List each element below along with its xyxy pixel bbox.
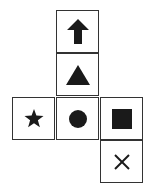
cell-star [12, 97, 55, 140]
cell-triangle [56, 53, 99, 96]
cross-icon [114, 154, 130, 170]
circle-icon [68, 109, 88, 129]
cell-circle [56, 97, 99, 140]
triangle-icon [66, 65, 90, 85]
square-icon [112, 109, 132, 129]
up-arrow-icon [67, 19, 89, 45]
cell-cross [100, 140, 143, 183]
cell-up-arrow [56, 10, 99, 53]
star-icon [24, 109, 44, 128]
cell-square [100, 97, 143, 140]
